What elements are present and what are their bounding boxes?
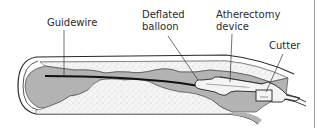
- label-guidewire: Guidewire: [47, 17, 97, 29]
- atherectomy-text-line1: Atherectomy: [216, 9, 280, 21]
- balloon-text-line2: balloon: [142, 21, 185, 33]
- guidewire-text: Guidewire: [47, 17, 97, 28]
- cutter-text: Cutter: [269, 40, 300, 51]
- atherectomy-diagram: Guidewire Deflated balloon Atherectomy d…: [0, 0, 318, 128]
- frame-border-right: [314, 0, 315, 128]
- atherectomy-text-line2: device: [216, 21, 280, 33]
- cutter: [256, 90, 272, 101]
- label-cutter: Cutter: [269, 40, 300, 52]
- label-deflated-balloon: Deflated balloon: [142, 9, 185, 33]
- label-atherectomy-device: Atherectomy device: [216, 9, 280, 33]
- balloon-text-line1: Deflated: [142, 9, 185, 21]
